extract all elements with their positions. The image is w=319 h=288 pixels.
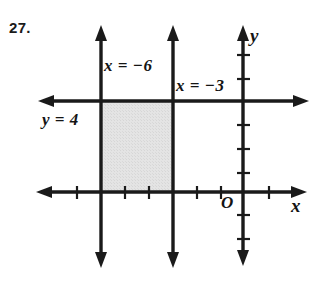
label-x-equals-neg6: x = −6 <box>104 57 153 74</box>
label-y-equals-4: y = 4 <box>42 111 79 128</box>
figure-container: 27. <box>0 0 319 288</box>
coordinate-graph <box>0 0 319 288</box>
y-axis-label: y <box>250 26 258 45</box>
x-axis-label: x <box>291 196 301 215</box>
origin-label: O <box>221 194 233 211</box>
y-axis <box>237 25 249 266</box>
label-x-equals-neg3: x = −3 <box>176 77 225 94</box>
shaded-solution-region <box>101 101 173 192</box>
